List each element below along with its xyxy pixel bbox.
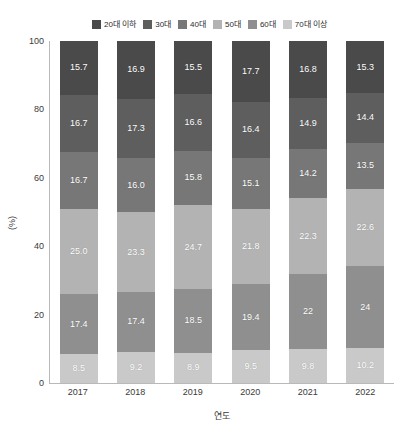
bar-segment-30대[interactable]: 14.4	[346, 93, 384, 142]
bar-segment-50대[interactable]: 22.3	[289, 198, 327, 274]
bar-segment-value: 23.3	[127, 248, 145, 257]
bar-segment-60대[interactable]: 19.4	[232, 284, 270, 350]
bar-segment-30대[interactable]: 16.7	[60, 95, 98, 152]
x-axis-tick-label: 2019	[174, 387, 212, 397]
bar-segment-50대[interactable]: 21.8	[232, 209, 270, 284]
bar-segment-50대[interactable]: 23.3	[117, 212, 155, 292]
x-axis-tick-label: 2022	[346, 387, 384, 397]
bar-segment-40대[interactable]: 14.2	[289, 149, 327, 198]
bar-stack: 15.516.615.824.718.58.9	[174, 41, 212, 383]
bar-segment-20대 이하[interactable]: 16.9	[117, 41, 155, 99]
bar-segment-60대[interactable]: 22	[289, 274, 327, 349]
bar-segment-60대[interactable]: 24	[346, 266, 384, 348]
bar-segment-40대[interactable]: 15.8	[174, 151, 212, 205]
bar-segment-50대[interactable]: 22.6	[346, 189, 384, 266]
legend-label: 70대 이상	[295, 20, 327, 29]
bar-segment-20대 이하[interactable]: 15.3	[346, 41, 384, 93]
bar-segment-value: 15.3	[357, 63, 375, 72]
bar-segment-20대 이하[interactable]: 17.7	[232, 41, 270, 102]
bar-segment-20대 이하[interactable]: 15.7	[60, 41, 98, 95]
bar-segment-value: 17.7	[242, 67, 260, 76]
bar-segment-value: 15.1	[242, 179, 260, 188]
bar-segment-value: 15.7	[70, 63, 88, 72]
bar-segment-70대 이상[interactable]: 9.2	[117, 352, 155, 383]
bar-segment-60대[interactable]: 17.4	[117, 292, 155, 351]
bar-segment-30대[interactable]: 17.3	[117, 99, 155, 158]
legend-label: 50대	[225, 20, 241, 29]
chart-legend: 20대 이하30대40대50대60대70대 이상	[0, 20, 419, 29]
legend-item-1[interactable]: 30대	[143, 20, 171, 29]
bar-segment-value: 9.2	[130, 363, 143, 372]
bar-segment-value: 21.8	[242, 242, 260, 251]
bar-segment-value: 14.4	[357, 113, 375, 122]
legend-swatch-icon	[213, 20, 222, 29]
bar-segment-70대 이상[interactable]: 10.2	[346, 348, 384, 383]
bar-segment-value: 22.6	[357, 223, 375, 232]
bar-segment-30대[interactable]: 16.6	[174, 94, 212, 151]
bar-segment-value: 9.5	[244, 362, 257, 371]
legend-label: 20대 이하	[104, 20, 136, 29]
legend-item-3[interactable]: 50대	[213, 20, 241, 29]
bar-segment-60대[interactable]: 17.4	[60, 294, 98, 354]
bar-segment-60대[interactable]: 18.5	[174, 289, 212, 352]
bar-segment-value: 24.7	[185, 243, 203, 252]
y-axis-tick-label: 60	[34, 173, 44, 182]
bar-stack: 16.917.316.023.317.49.2	[117, 41, 155, 383]
legend-item-0[interactable]: 20대 이하	[92, 20, 136, 29]
bar-column-2017[interactable]: 15.716.716.725.017.48.5	[60, 41, 98, 383]
bar-segment-value: 16.9	[127, 65, 145, 74]
bar-column-2019[interactable]: 15.516.615.824.718.58.9	[174, 41, 212, 383]
legend-item-5[interactable]: 70대 이상	[283, 20, 327, 29]
bar-segment-40대[interactable]: 16.7	[60, 152, 98, 209]
y-axis-tick-label: 40	[34, 242, 44, 251]
bar-segment-value: 18.5	[185, 316, 203, 325]
bar-segment-value: 15.5	[185, 63, 203, 72]
bar-segment-value: 14.9	[299, 119, 317, 128]
bar-segment-50대[interactable]: 25.0	[60, 209, 98, 295]
bar-segment-value: 22	[303, 307, 313, 316]
bar-stack: 15.314.413.522.62410.2	[346, 41, 384, 383]
bar-segment-40대[interactable]: 15.1	[232, 158, 270, 210]
bar-stack: 17.716.415.121.819.49.5	[232, 41, 270, 383]
x-axis-tick-label: 2018	[116, 387, 154, 397]
bar-segment-value: 16.8	[299, 65, 317, 74]
legend-label: 40대	[190, 20, 206, 29]
stacked-bar-chart: 20대 이하30대40대50대60대70대 이상 020406080100 15…	[0, 0, 419, 445]
bar-segment-30대[interactable]: 14.9	[289, 98, 327, 149]
bar-segment-70대 이상[interactable]: 8.9	[174, 353, 212, 383]
bar-segment-20대 이하[interactable]: 15.5	[174, 41, 212, 94]
legend-swatch-icon	[178, 20, 187, 29]
bar-segment-50대[interactable]: 24.7	[174, 205, 212, 289]
legend-item-4[interactable]: 60대	[248, 20, 276, 29]
legend-item-2[interactable]: 40대	[178, 20, 206, 29]
bar-column-2021[interactable]: 16.814.914.222.3229.8	[289, 41, 327, 383]
bar-segment-value: 25.0	[70, 247, 88, 256]
bar-segment-value: 10.2	[357, 361, 375, 370]
bar-segment-70대 이상[interactable]: 9.8	[289, 349, 327, 383]
bar-stack: 15.716.716.725.017.48.5	[60, 41, 98, 383]
bar-segment-70대 이상[interactable]: 8.5	[60, 354, 98, 383]
bar-segment-value: 17.4	[127, 317, 145, 326]
legend-swatch-icon	[283, 20, 292, 29]
y-axis-tick-label: 0	[39, 379, 44, 388]
bar-column-2020[interactable]: 17.716.415.121.819.49.5	[232, 41, 270, 383]
x-axis-title: 연도	[49, 409, 394, 422]
legend-swatch-icon	[143, 20, 152, 29]
plot-frame: 020406080100 15.716.716.725.017.48.516.9…	[49, 41, 394, 384]
bar-segment-40대[interactable]: 13.5	[346, 143, 384, 189]
bar-segment-value: 24	[360, 303, 370, 312]
bar-segment-40대[interactable]: 16.0	[117, 158, 155, 213]
x-axis-tick-label: 2021	[289, 387, 327, 397]
bar-segment-value: 9.8	[302, 362, 315, 371]
bar-segment-30대[interactable]: 16.4	[232, 102, 270, 158]
bar-segment-value: 16.4	[242, 125, 260, 134]
bar-segment-value: 16.7	[70, 119, 88, 128]
bar-segment-70대 이상[interactable]: 9.5	[232, 350, 270, 383]
bar-column-2018[interactable]: 16.917.316.023.317.49.2	[117, 41, 155, 383]
x-axis-ticks: 201720182019202020212022	[49, 387, 394, 397]
bar-segment-value: 16.0	[127, 181, 145, 190]
bar-segment-20대 이하[interactable]: 16.8	[289, 41, 327, 98]
bar-segment-value: 19.4	[242, 313, 260, 322]
bar-column-2022[interactable]: 15.314.413.522.62410.2	[346, 41, 384, 383]
x-axis-tick-label: 2017	[59, 387, 97, 397]
